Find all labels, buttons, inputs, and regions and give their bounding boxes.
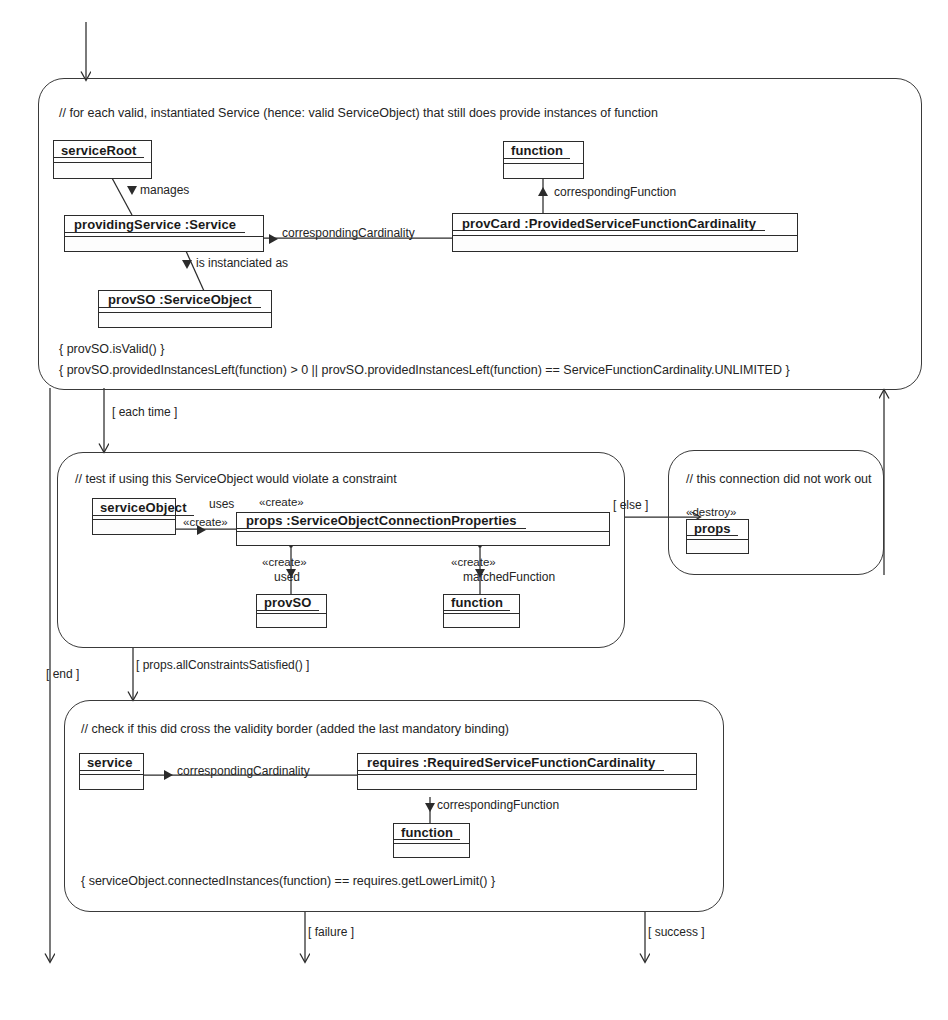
link-label-is-instanciated-as: is instanciated as	[196, 256, 288, 270]
stereotype-create-uses: «create»	[183, 516, 228, 528]
guard-success: [ success ]	[648, 925, 705, 939]
link-label-correspondingFunction-bottom: correspondingFunction	[437, 798, 559, 812]
object-provSO-top[interactable]: provSO :ServiceObject	[98, 290, 272, 328]
stereotype-create-used: «create»	[262, 556, 307, 568]
object-label: service	[80, 756, 140, 771]
object-attribute-compartment	[453, 236, 797, 251]
object-label: provCard :ProvidedServiceFunctionCardina…	[453, 217, 765, 232]
object-label: function	[444, 596, 510, 611]
object-name-compartment: service	[80, 754, 143, 775]
constraint-providedInstancesLeft: { provSO.providedInstancesLeft(function)…	[59, 363, 790, 377]
object-name-compartment: props :ServiceObjectConnectionProperties	[237, 513, 609, 532]
object-attribute-compartment	[65, 237, 263, 251]
object-label: provSO :ServiceObject	[99, 293, 261, 308]
object-providingService[interactable]: providingService :Service	[64, 215, 264, 252]
link-label-matchedFunction: matchedFunction	[463, 570, 555, 584]
object-name-compartment: provSO :ServiceObject	[99, 291, 271, 313]
link-label-correspondingCardinality-bottom: correspondingCardinality	[177, 764, 310, 778]
object-provSO-mid[interactable]: provSO	[256, 594, 327, 628]
guard-each-time: [ each time ]	[112, 405, 177, 419]
comment-fail: // this connection did not work out	[686, 472, 872, 486]
link-label-uses: uses	[209, 497, 234, 511]
link-label-correspondingCardinality-top: correspondingCardinality	[282, 226, 415, 240]
object-name-compartment: props	[687, 520, 748, 540]
object-name-compartment: serviceRoot	[54, 141, 151, 163]
object-name-compartment: function	[394, 824, 469, 844]
link-label-used: used	[274, 570, 300, 584]
object-provCard[interactable]: provCard :ProvidedServiceFunctionCardina…	[452, 213, 798, 252]
object-label: requires :RequiredServiceFunctionCardina…	[358, 756, 664, 771]
object-name-compartment: provSO	[257, 595, 326, 614]
object-label: props :ServiceObjectConnectionProperties	[237, 514, 526, 529]
object-function-top[interactable]: function	[503, 141, 584, 179]
guard-else: [ else ]	[613, 498, 648, 512]
stereotype-create-props: «create»	[259, 496, 304, 508]
guard-failure: [ failure ]	[308, 925, 354, 939]
guard-all-constraints-satisfied: [ props.allConstraintsSatisfied() ]	[136, 658, 309, 672]
object-name-compartment: serviceObject	[93, 499, 175, 520]
comment-check: // check if this did cross the validity …	[81, 722, 509, 736]
comment-test: // test if using this ServiceObject woul…	[75, 472, 397, 486]
object-name-compartment: providingService :Service	[65, 216, 263, 237]
object-name-compartment: function	[444, 595, 519, 614]
object-label: serviceRoot	[54, 144, 144, 159]
object-attribute-compartment	[99, 313, 271, 327]
object-props[interactable]: props :ServiceObjectConnectionProperties	[236, 512, 610, 546]
object-name-compartment: requires :RequiredServiceFunctionCardina…	[358, 754, 696, 775]
uml-activity-diagram: // for each valid, instantiated Service …	[0, 0, 948, 1020]
stereotype-destroy: «destroy»	[686, 506, 737, 518]
object-attribute-compartment	[54, 163, 151, 178]
object-attribute-compartment	[80, 775, 143, 789]
object-label: provSO	[257, 596, 319, 611]
object-function-mid[interactable]: function	[443, 594, 520, 628]
object-service[interactable]: service	[79, 753, 144, 790]
object-attribute-compartment	[687, 540, 748, 553]
object-serviceRoot[interactable]: serviceRoot	[53, 140, 152, 179]
object-attribute-compartment	[504, 164, 583, 178]
object-label: function	[504, 144, 570, 159]
link-label-correspondingFunction-top: correspondingFunction	[554, 185, 676, 199]
stereotype-create-matched: «create»	[451, 556, 496, 568]
object-attribute-compartment	[394, 844, 469, 857]
object-serviceObject[interactable]: serviceObject	[92, 498, 176, 535]
comment-loop: // for each valid, instantiated Service …	[59, 106, 658, 120]
object-name-compartment: function	[504, 142, 583, 164]
object-label: function	[394, 826, 460, 841]
object-attribute-compartment	[257, 614, 326, 627]
object-attribute-compartment	[93, 520, 175, 534]
object-label: props	[687, 522, 738, 537]
object-name-compartment: provCard :ProvidedServiceFunctionCardina…	[453, 214, 797, 236]
constraint-connectedInstances: { serviceObject.connectedInstances(funct…	[81, 874, 495, 888]
constraint-provSO-isValid: { provSO.isValid() }	[59, 342, 164, 356]
object-attribute-compartment	[237, 532, 609, 545]
object-label: providingService :Service	[65, 218, 245, 233]
object-label: serviceObject	[93, 501, 194, 516]
guard-end: [ end ]	[46, 667, 79, 681]
link-label-manages: manages	[140, 183, 189, 197]
object-props-destroy[interactable]: props	[686, 519, 749, 554]
object-attribute-compartment	[358, 775, 696, 789]
object-attribute-compartment	[444, 614, 519, 627]
object-function-bottom[interactable]: function	[393, 823, 470, 858]
object-requires[interactable]: requires :RequiredServiceFunctionCardina…	[357, 753, 697, 790]
